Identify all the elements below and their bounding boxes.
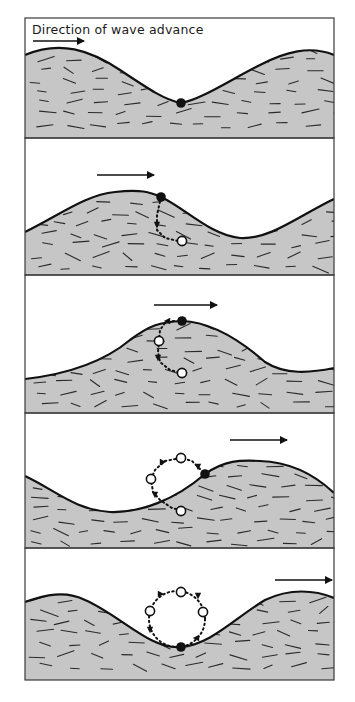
previous-particle-position [177, 368, 186, 377]
wave-panel-2 [25, 138, 348, 275]
previous-particle-position [176, 587, 185, 596]
water-body [25, 461, 334, 548]
direction-arrowhead-icon [160, 459, 166, 465]
previous-particle-position [146, 474, 155, 483]
wave-panel-3 [25, 275, 340, 413]
water-body [25, 592, 334, 681]
wave-panels [0, 0, 355, 702]
current-particle-position [177, 316, 187, 326]
figure-title: Direction of wave advance [32, 22, 204, 37]
current-particle-position [176, 98, 186, 108]
wave-orbital-motion-diagram: Direction of wave advance [0, 0, 355, 702]
current-particle-position [176, 642, 186, 652]
current-particle-position [156, 192, 166, 202]
wave-panel-5 [25, 548, 342, 680]
previous-particle-position [176, 453, 185, 462]
wave-panel-4 [25, 413, 348, 548]
current-particle-position [200, 469, 210, 479]
water-body [25, 321, 334, 413]
previous-particle-position [198, 607, 207, 616]
previous-particle-position [177, 236, 186, 245]
previous-particle-position [176, 506, 185, 515]
previous-particle-position [145, 606, 154, 615]
previous-particle-position [154, 336, 163, 345]
